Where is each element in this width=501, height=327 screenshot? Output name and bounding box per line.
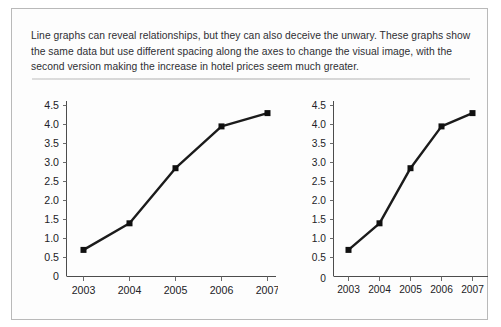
- y-tick-label: 0: [320, 273, 326, 284]
- series-line-right: [349, 113, 473, 250]
- x-tick-label: 2006: [210, 284, 234, 296]
- x-axis-tick-labels-left: 2003 2004 2005 2006 2007: [72, 284, 278, 296]
- data-point-marker: [408, 165, 414, 171]
- x-axis-ticks-left: [84, 277, 268, 282]
- y-tick-label: 0.5: [312, 252, 326, 263]
- x-tick-label: 2003: [337, 284, 360, 295]
- x-tick-label: 2007: [256, 284, 278, 296]
- y-tick-label: 4.5: [44, 99, 59, 111]
- chart-narrow-spacing: 4.5 4.0 3.5 3.0 2.5 2.0 1.5 1.0 0.5 0: [300, 93, 490, 308]
- x-tick-label: 2007: [461, 284, 484, 295]
- chart-wide-spacing-svg: 4.5 4.0 3.5 3.0 2.5 2.0 1.5 1.0 0.5 0: [30, 93, 278, 308]
- series-markers-left: [81, 110, 271, 253]
- y-tick-label: 3.0: [312, 157, 326, 168]
- caption-divider: [32, 78, 470, 80]
- chart-narrow-spacing-svg: 4.5 4.0 3.5 3.0 2.5 2.0 1.5 1.0 0.5 0: [300, 93, 490, 308]
- data-point-marker: [265, 110, 271, 116]
- series-line-left: [84, 113, 268, 250]
- figure-caption: Line graphs can reveal relationships, bu…: [31, 28, 473, 74]
- x-axis-ticks-right: [349, 277, 473, 282]
- x-tick-label: 2005: [399, 284, 422, 295]
- data-point-marker: [439, 123, 445, 129]
- y-tick-label: 4.0: [312, 119, 326, 130]
- y-tick-label: 4.0: [44, 118, 59, 130]
- figure-container: Line graphs can reveal relationships, bu…: [11, 8, 488, 320]
- chart-wide-spacing: 4.5 4.0 3.5 3.0 2.5 2.0 1.5 1.0 0.5 0: [30, 93, 278, 308]
- y-tick-label: 3.0: [44, 156, 59, 168]
- x-tick-label: 2003: [72, 284, 96, 296]
- y-tick-label: 4.5: [312, 100, 326, 111]
- data-point-marker: [346, 247, 352, 253]
- y-tick-label: 1.0: [312, 233, 326, 244]
- x-tick-label: 2005: [164, 284, 188, 296]
- y-tick-label: 3.5: [44, 137, 59, 149]
- data-point-marker: [470, 110, 476, 116]
- y-tick-label: 1.5: [312, 214, 326, 225]
- y-tick-label: 1.0: [44, 232, 59, 244]
- data-point-marker: [81, 247, 87, 253]
- y-axis-tick-labels-left: 4.5 4.0 3.5 3.0 2.5 2.0 1.5 1.0 0.5 0: [44, 99, 59, 282]
- y-tick-label: 2.0: [44, 194, 59, 206]
- y-tick-label: 2.5: [312, 176, 326, 187]
- y-axis-ticks-right: [330, 106, 334, 258]
- y-tick-label: 1.5: [44, 213, 59, 225]
- data-point-marker: [377, 220, 383, 226]
- x-tick-label: 2006: [430, 284, 453, 295]
- y-axis-ticks-left: [63, 106, 67, 258]
- x-axis-tick-labels-right: 2003 2004 2005 2006 2007: [337, 284, 484, 295]
- data-point-marker: [173, 165, 179, 171]
- y-tick-label: 2.5: [44, 175, 59, 187]
- x-tick-label: 2004: [118, 284, 142, 296]
- series-markers-right: [346, 110, 476, 253]
- x-tick-label: 2004: [368, 284, 391, 295]
- y-tick-label: 3.5: [312, 138, 326, 149]
- y-tick-label: 0.5: [44, 251, 59, 263]
- y-tick-label: 0: [53, 270, 59, 282]
- y-tick-label: 2.0: [312, 195, 326, 206]
- data-point-marker: [219, 123, 225, 129]
- data-point-marker: [127, 220, 133, 226]
- y-axis-tick-labels-right: 4.5 4.0 3.5 3.0 2.5 2.0 1.5 1.0 0.5 0: [312, 100, 327, 284]
